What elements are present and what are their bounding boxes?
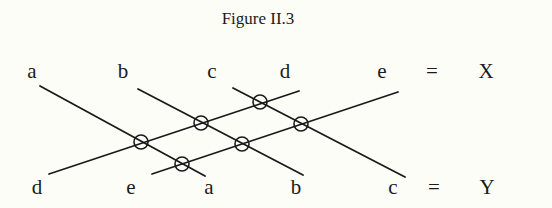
bottom_row-label-Y: Y	[479, 175, 494, 199]
top_row-label-equals: =	[426, 59, 438, 83]
bottom_row-label-c: c	[388, 175, 397, 199]
top_row-label-e: e	[377, 59, 386, 83]
bottom_row-label-b: b	[291, 175, 302, 199]
bottom_row-label-a: a	[204, 175, 214, 199]
figure-canvas: Figure II.3 abcde=X deabc=Y	[0, 0, 552, 208]
figure-title: Figure II.3	[222, 9, 295, 28]
top_row-label-d: d	[280, 59, 291, 83]
line-d	[49, 91, 299, 174]
crossing-diagram: Figure II.3 abcde=X deabc=Y	[0, 0, 552, 208]
connection-lines	[40, 86, 405, 177]
top-row-labels: abcde=X	[27, 59, 493, 83]
bottom-row-labels: deabc=Y	[32, 175, 495, 199]
top_row-label-a: a	[27, 59, 37, 83]
top_row-label-X: X	[478, 59, 493, 83]
bottom_row-label-e: e	[126, 175, 135, 199]
top_row-label-b: b	[118, 59, 129, 83]
bottom_row-label-equals: =	[428, 175, 440, 199]
line-c	[233, 88, 405, 177]
bottom_row-label-d: d	[32, 175, 43, 199]
top_row-label-c: c	[207, 59, 216, 83]
